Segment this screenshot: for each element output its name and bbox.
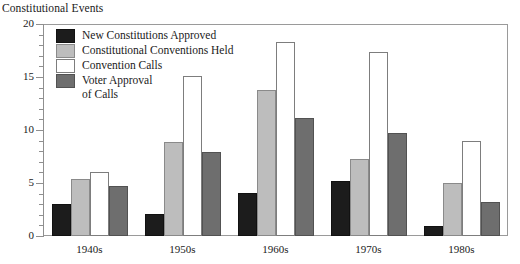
y-axis-label: 10 — [0, 124, 34, 135]
y-axis-tick — [36, 24, 43, 25]
y-axis-tick — [36, 236, 43, 237]
bar — [481, 202, 500, 236]
bar — [164, 142, 183, 236]
bar — [238, 193, 257, 236]
y-axis-label: 5 — [0, 177, 34, 188]
bar — [295, 118, 314, 236]
bar-chart: Constitutional Events 05101520 1940s1950… — [0, 0, 520, 264]
y-axis-tick — [36, 183, 43, 184]
y-axis-tick — [36, 77, 43, 78]
bar — [202, 152, 221, 236]
y-axis-label: 0 — [0, 230, 34, 241]
bar — [350, 159, 369, 236]
bar — [52, 204, 71, 236]
bar — [90, 172, 109, 236]
legend-label: Constitutional Conventions Held — [82, 43, 233, 57]
bar — [331, 181, 350, 236]
y-axis-label: 20 — [0, 18, 34, 29]
y-axis-tick — [36, 130, 43, 131]
y-axis-label: 15 — [0, 71, 34, 82]
legend-swatch — [56, 74, 75, 88]
legend-label-line2: of Calls — [82, 87, 118, 101]
bar — [71, 179, 90, 236]
bar — [424, 226, 443, 236]
legend-swatch — [56, 44, 75, 58]
bar — [369, 52, 388, 236]
bar — [388, 133, 407, 236]
legend-swatch — [56, 59, 75, 73]
legend-label: Voter Approval — [82, 73, 152, 87]
chart-title: Constitutional Events — [2, 2, 103, 15]
bar — [109, 186, 128, 236]
bar — [257, 90, 276, 236]
bar — [276, 42, 295, 236]
legend-label: New Constitutions Approved — [82, 28, 216, 42]
legend-label: Convention Calls — [82, 58, 162, 72]
bar — [462, 141, 481, 236]
bar — [183, 76, 202, 236]
legend-swatch — [56, 29, 75, 43]
bar — [145, 214, 164, 236]
bar — [443, 183, 462, 236]
x-axis-label: 1980s — [407, 243, 517, 255]
